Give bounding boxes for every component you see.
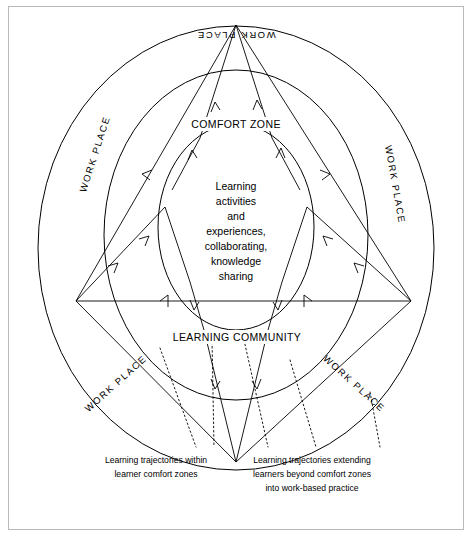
- center-line-7: sharing: [219, 270, 254, 282]
- center-line-4: experiences,: [206, 225, 266, 237]
- caption-left: Learning trajectories within learner com…: [105, 455, 207, 479]
- workplace-label-bottom-left: WORK PLACE: [82, 353, 148, 414]
- caption-right-line-1: Learning trajectories extending: [253, 455, 371, 465]
- diagram-page: COMFORT ZONE LEARNING COMMUNITY WORK PLA…: [0, 0, 472, 537]
- center-line-3: and: [227, 210, 245, 222]
- workplace-label-top-text: WORK PLACE: [196, 30, 275, 41]
- workplace-label-right: WORK PLACE: [383, 144, 408, 224]
- workplace-label-left: WORK PLACE: [77, 114, 112, 193]
- learning-community-label: LEARNING COMMUNITY: [173, 331, 302, 343]
- workplace-label-bottom-right-text: WORK PLACE: [321, 353, 387, 414]
- workplace-label-right-text: WORK PLACE: [383, 144, 408, 224]
- center-line-1: Learning: [216, 180, 257, 192]
- caption-right-line-3: into work-based practice: [265, 483, 358, 493]
- caption-right-line-2: learners beyond comfort zones: [253, 469, 371, 479]
- label-comfort-zone: COMFORT ZONE: [185, 117, 289, 131]
- label-learning-community: LEARNING COMMUNITY: [173, 330, 302, 344]
- workplace-label-left-text: WORK PLACE: [77, 114, 112, 193]
- center-text-block: Learning activities and experiences, col…: [205, 180, 267, 282]
- workplace-label-top: WORK PLACE: [196, 30, 275, 41]
- caption-left-line-1: Learning trajectories within: [105, 455, 207, 465]
- center-line-2: activities: [216, 195, 256, 207]
- caption-left-line-2: learner comfort zones: [114, 469, 197, 479]
- workplace-label-bottom-right: WORK PLACE: [321, 353, 387, 414]
- learning-trajectories-diagram: COMFORT ZONE LEARNING COMMUNITY WORK PLA…: [0, 0, 472, 537]
- comfort-zone-label: COMFORT ZONE: [191, 118, 281, 130]
- center-line-5: collaborating,: [205, 240, 267, 252]
- caption-right: Learning trajectories extending learners…: [253, 455, 371, 493]
- center-line-6: knowledge: [211, 255, 261, 267]
- workplace-label-bottom-left-text: WORK PLACE: [82, 353, 148, 414]
